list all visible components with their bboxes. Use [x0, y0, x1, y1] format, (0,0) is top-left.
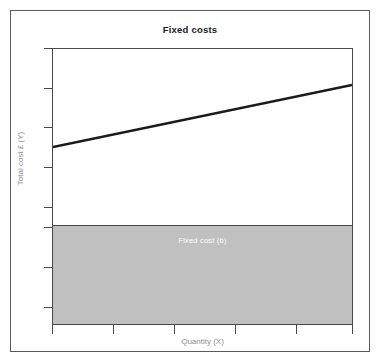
plot-area: Fixed cost (b)	[52, 48, 353, 325]
y-axis-tick	[44, 167, 52, 168]
y-axis-label: Total cost £ (Y)	[16, 94, 25, 224]
x-axis-label: Quantity (X)	[52, 337, 353, 346]
y-axis-tick	[44, 307, 52, 308]
chart-title: Fixed costs	[10, 24, 370, 35]
x-axis-tick	[174, 325, 175, 334]
chart-screenshot: Fixed costs Total cost £ (Y) Quantity (X…	[0, 0, 379, 363]
y-axis-tick	[44, 227, 52, 228]
y-axis-tick	[44, 267, 52, 268]
y-axis-tick	[44, 127, 52, 128]
y-axis-tick	[44, 88, 52, 89]
y-axis-tick	[44, 48, 52, 49]
fixed-cost-annotation: Fixed cost (b)	[53, 236, 352, 245]
x-axis-tick	[352, 325, 353, 334]
y-axis-tick	[44, 207, 52, 208]
x-axis-tick	[235, 325, 236, 334]
x-axis-tick	[296, 325, 297, 334]
x-axis-tick	[52, 325, 53, 334]
fixed-cost-area: Fixed cost (b)	[53, 225, 352, 324]
x-axis-tick	[113, 325, 114, 334]
